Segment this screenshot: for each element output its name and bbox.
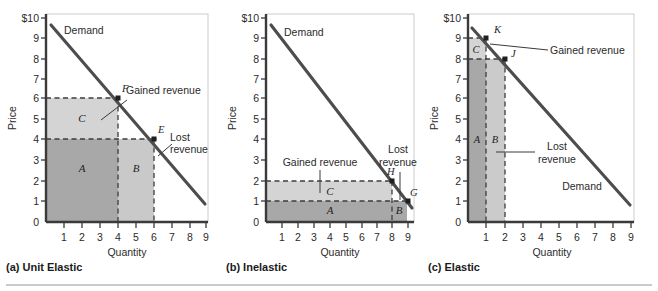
point-marker-G bbox=[406, 199, 411, 204]
x-tick-label: 7 bbox=[592, 231, 598, 243]
lost-revenue-label-line1: Lost bbox=[388, 143, 408, 155]
x-tick-label: 4 bbox=[115, 231, 121, 243]
region-label-A: A bbox=[473, 134, 481, 145]
region-label-C: C bbox=[472, 44, 480, 55]
y-tick-label: 7 bbox=[253, 73, 259, 85]
region-label-A: A bbox=[326, 204, 334, 216]
x-tick-label: 3 bbox=[520, 231, 526, 243]
x-tick-label: 1 bbox=[279, 231, 285, 243]
y-tick-label: 5 bbox=[253, 113, 259, 125]
x-tick-label: 8 bbox=[389, 231, 395, 243]
y-tick-labels: $10 9 8 7 6 5 4 3 2 1 0 bbox=[241, 12, 259, 228]
y-tick-label: 2 bbox=[455, 175, 461, 187]
x-tick-label: 3 bbox=[311, 231, 317, 243]
demand-label: Demand bbox=[284, 26, 324, 38]
y-tick-label: 1 bbox=[253, 195, 259, 207]
x-tick-label: 9 bbox=[203, 231, 209, 243]
gained-revenue-label: Gained revenue bbox=[126, 84, 201, 96]
y-tick-label: 6 bbox=[33, 92, 39, 104]
y-tick-label: 0 bbox=[253, 216, 259, 228]
x-tick-label: 6 bbox=[574, 231, 580, 243]
panel-caption: (a) Unit Elastic bbox=[6, 261, 82, 273]
lost-revenue-label-line2: revenue bbox=[170, 143, 208, 155]
x-tick-labels: 1 2 3 4 5 6 7 8 9 bbox=[279, 231, 411, 243]
y-tick-label: 6 bbox=[455, 92, 461, 104]
panel-caption: (c) Elastic bbox=[428, 261, 480, 273]
lost-revenue-label-line1: Lost bbox=[547, 140, 567, 152]
region-A bbox=[266, 201, 407, 222]
x-tick-label: 5 bbox=[556, 231, 562, 243]
region-label-A: A bbox=[78, 162, 86, 174]
panel-elastic: $10 9 8 7 6 5 4 3 2 1 0 1 2 3 4 5 6 7 8 bbox=[422, 0, 658, 291]
x-tick-label: 2 bbox=[502, 231, 508, 243]
region-A bbox=[46, 139, 118, 222]
y-tick-label: 5 bbox=[33, 113, 39, 125]
chart-elastic: $10 9 8 7 6 5 4 3 2 1 0 1 2 3 4 5 6 7 8 bbox=[422, 0, 658, 291]
x-tick-label: 4 bbox=[538, 231, 544, 243]
y-tick-labels: $10 9 8 7 6 5 4 3 2 1 0 bbox=[443, 12, 461, 228]
x-tick-labels: 1 2 3 4 5 6 7 8 9 bbox=[61, 231, 209, 243]
x-axis-title: Quantity bbox=[320, 246, 360, 258]
y-tick-label: $10 bbox=[241, 12, 259, 24]
demand-label: Demand bbox=[562, 180, 602, 192]
point-marker-J bbox=[503, 57, 508, 62]
y-tick-label: 1 bbox=[33, 195, 39, 207]
x-tick-labels: 1 2 3 4 5 6 7 8 9 bbox=[483, 231, 634, 243]
x-tick-label: 4 bbox=[327, 231, 333, 243]
y-tick-label: 4 bbox=[455, 133, 461, 145]
x-tick-label: 6 bbox=[151, 231, 157, 243]
x-tick-label: 5 bbox=[133, 231, 139, 243]
region-A bbox=[468, 38, 486, 222]
x-axis-title: Quantity bbox=[532, 246, 572, 258]
y-tick-label: $10 bbox=[443, 12, 461, 24]
panel-inelastic: $10 9 8 7 6 5 4 3 2 1 0 1 2 3 4 5 6 7 8 bbox=[222, 0, 422, 291]
x-axis-title: Quantity bbox=[107, 246, 147, 258]
panel-caption: (b) Inelastic bbox=[226, 261, 287, 273]
lost-revenue-label-line2: revenue bbox=[379, 156, 417, 168]
y-tick-label: 4 bbox=[33, 133, 39, 145]
y-tick-labels: $10 9 8 7 6 5 4 3 2 1 0 bbox=[21, 12, 39, 228]
point-marker-E bbox=[152, 137, 157, 142]
y-tick-label: 5 bbox=[455, 113, 461, 125]
region-label-C: C bbox=[78, 112, 86, 124]
point-marker-K bbox=[484, 36, 489, 41]
y-tick-label: 4 bbox=[253, 133, 259, 145]
y-tick-label: 3 bbox=[253, 154, 259, 166]
x-tick-label: 2 bbox=[79, 231, 85, 243]
bottom-rule bbox=[0, 283, 658, 291]
y-tick-label: 2 bbox=[253, 175, 259, 187]
x-tick-label: 2 bbox=[295, 231, 301, 243]
region-label-B: B bbox=[396, 204, 403, 216]
y-tick-label: 1 bbox=[455, 195, 461, 207]
chart-unit-elastic: $10 9 8 7 6 5 4 3 2 1 0 1 2 3 4 5 6 7 bbox=[0, 0, 222, 291]
y-tick-label: 8 bbox=[33, 53, 39, 65]
y-tick-label: 9 bbox=[33, 32, 39, 44]
y-tick-label: 0 bbox=[33, 216, 39, 228]
x-tick-label: 7 bbox=[169, 231, 175, 243]
y-axis-title: Price bbox=[428, 106, 440, 130]
point-label-G: G bbox=[410, 187, 418, 198]
x-tick-label: 8 bbox=[187, 231, 193, 243]
lost-revenue-label-line1: Lost bbox=[170, 131, 190, 143]
y-tick-label: 7 bbox=[33, 73, 39, 85]
x-tick-label: 6 bbox=[359, 231, 365, 243]
region-label-B: B bbox=[133, 162, 140, 174]
point-marker-H bbox=[390, 179, 395, 184]
y-axis-title: Price bbox=[6, 106, 18, 130]
gained-revenue-label: Gained revenue bbox=[550, 44, 625, 56]
y-tick-label: 0 bbox=[455, 216, 461, 228]
y-tick-label: 3 bbox=[33, 154, 39, 166]
y-tick-label: 9 bbox=[253, 32, 259, 44]
demand-label: Demand bbox=[64, 24, 104, 36]
y-tick-label: 9 bbox=[455, 32, 461, 44]
x-tick-label: 9 bbox=[628, 231, 634, 243]
x-tick-label: 3 bbox=[97, 231, 103, 243]
point-label-E: E bbox=[157, 124, 165, 135]
region-label-B: B bbox=[492, 134, 499, 145]
y-tick-label: 2 bbox=[33, 175, 39, 187]
y-tick-label: 7 bbox=[455, 73, 461, 85]
chart-inelastic: $10 9 8 7 6 5 4 3 2 1 0 1 2 3 4 5 6 7 8 bbox=[222, 0, 422, 291]
panel-unit-elastic: $10 9 8 7 6 5 4 3 2 1 0 1 2 3 4 5 6 7 bbox=[0, 0, 222, 291]
region-label-C: C bbox=[326, 185, 334, 197]
point-marker-F bbox=[116, 96, 121, 101]
